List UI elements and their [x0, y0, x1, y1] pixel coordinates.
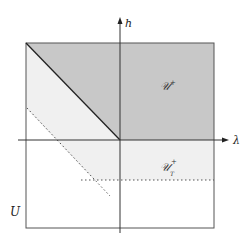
- domain-label-u: U: [10, 205, 21, 219]
- region-u-t-plus-superscript: +: [171, 158, 177, 166]
- lambda-axis-arrow-icon: [222, 138, 229, 143]
- lambda-axis-label: λ: [232, 134, 240, 147]
- h-axis-label: h: [125, 17, 132, 30]
- region-u-plus-superscript: +: [170, 79, 176, 87]
- h-axis-arrow-icon: [118, 17, 123, 24]
- region-diagram: h λ U 𝒰 + 𝒰 + T: [0, 0, 251, 242]
